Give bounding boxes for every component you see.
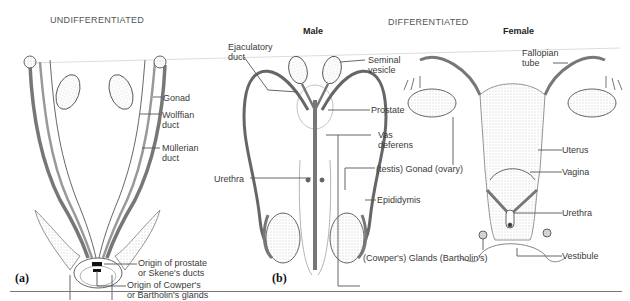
label-mullerian-duct: Müllerian duct [162,143,199,163]
label-vestibule: Vestibule [562,251,599,261]
panel-label-b: (b) [272,271,287,286]
label-glands: (Cowper's) Glands (Bartholin's) [363,253,487,263]
label-vas-deferens: Vas deferens [378,130,413,150]
label-origin-cowper: Origin of Cowper's or Bartholin's glands [127,280,208,300]
label-wolffian-duct: Wolffian duct [162,110,194,130]
panel-label-a: (a) [15,271,29,286]
label-uterus: Uterus [562,145,589,155]
label-urethra-male: Urethra [214,174,244,184]
bottom-rule [10,291,622,292]
label-vagina: Vagina [562,167,589,177]
label-prostate: Prostate [371,105,405,115]
label-urethra-female: Urethra [562,208,592,218]
label-gonad-undiff: Gonad [163,93,190,103]
label-gonad-differentiated: (testis) Gonad (ovary) [376,164,463,174]
label-seminal-vesicle: Seminal vesicle [368,55,401,75]
male-diagram [244,54,386,286]
anatomy-drawings [0,0,630,301]
label-epididymis: Epididymis [377,195,421,205]
female-diagram [404,57,622,261]
label-origin-prostate: Origin of prostate or Skene's ducts [138,258,207,278]
label-fallopian-tube: Fallopian tube [522,48,559,68]
label-ejaculatory-duct: Ejaculatory duct [228,42,273,62]
